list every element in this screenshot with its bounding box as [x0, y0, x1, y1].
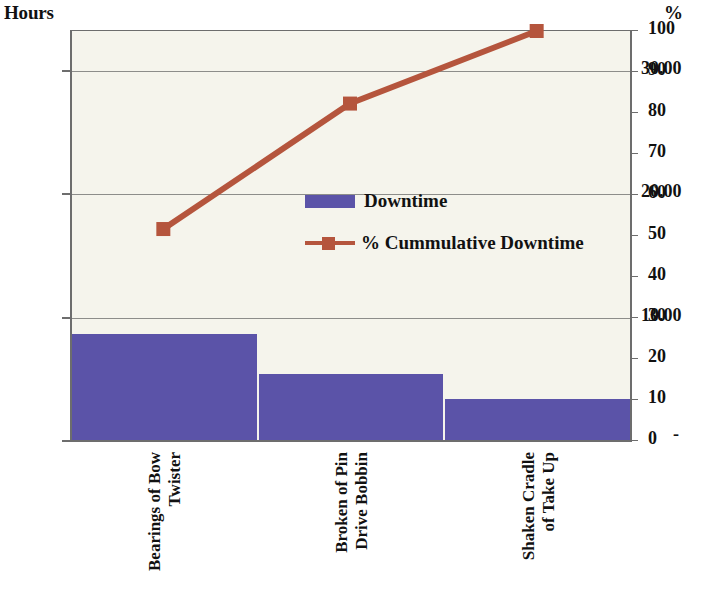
right-axis-tick — [630, 71, 638, 72]
line-marker — [156, 222, 170, 236]
right-axis-tick-label: 100 — [648, 18, 675, 39]
x-axis-category-label: Bearings of BowTwister — [145, 452, 184, 601]
right-axis-tick-label: 70 — [648, 141, 666, 162]
legend-item-downtime: Downtime — [305, 180, 584, 222]
right-axis-tick — [630, 194, 638, 195]
left-axis-tick — [62, 440, 72, 442]
chart-legend: Downtime % Cummulative Downtime — [305, 180, 584, 264]
right-axis-tick-label: 90 — [648, 59, 666, 80]
x-axis-category-label: Broken of PinDrive Bobbin — [332, 452, 371, 601]
left-axis-tick — [62, 70, 72, 72]
legend-label-downtime: Downtime — [364, 190, 447, 212]
right-axis-tick-label: 40 — [648, 264, 666, 285]
right-axis-tick — [630, 399, 638, 400]
right-axis-tick-label: 80 — [648, 100, 666, 121]
right-axis-tick-label: 0 — [648, 428, 657, 449]
left-axis-tick — [62, 317, 72, 319]
left-axis-title: Hours — [4, 2, 54, 24]
right-axis-tick-label: 60 — [648, 182, 666, 203]
right-axis-tick — [630, 358, 638, 359]
left-axis-line — [70, 30, 72, 440]
legend-swatch-bar-icon — [305, 195, 355, 208]
right-axis-tick — [630, 30, 638, 31]
right-axis-tick — [630, 440, 638, 441]
right-axis-tick-label: 50 — [648, 223, 666, 244]
right-axis-tick — [630, 112, 638, 113]
right-axis-tick — [630, 276, 638, 277]
legend-item-cumulative: % Cummulative Downtime — [305, 222, 584, 264]
right-axis-tick-label: 20 — [648, 346, 666, 367]
bottom-axis-line — [70, 440, 632, 442]
pareto-chart: Hours % -10.0020.0030.00 010203040506070… — [0, 0, 701, 601]
right-axis-tick-label: 10 — [648, 387, 666, 408]
x-axis-category-label: Shaken Cradleof Take Up — [519, 452, 558, 601]
right-axis-tick — [630, 317, 638, 318]
line-marker — [343, 97, 357, 111]
left-axis-tick — [62, 193, 72, 195]
line-marker — [530, 24, 544, 38]
right-axis-tick — [630, 153, 638, 154]
right-axis-tick-label: 30 — [648, 305, 666, 326]
legend-label-cumulative: % Cummulative Downtime — [361, 232, 584, 254]
legend-swatch-line-icon — [305, 234, 355, 252]
right-axis-tick — [630, 235, 638, 236]
